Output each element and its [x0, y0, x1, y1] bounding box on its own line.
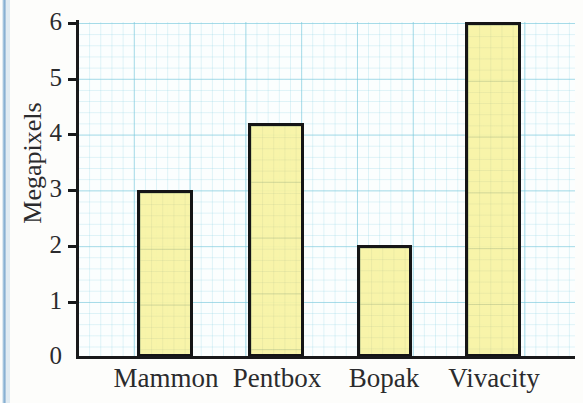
- x-label-bopak: Bopak: [349, 364, 420, 394]
- y-tick-label: 6: [50, 9, 63, 34]
- y-tick-mark: [68, 245, 78, 248]
- bar-pentbox: [248, 123, 304, 358]
- bar-vivacity: [465, 22, 521, 357]
- y-tick-label: 4: [50, 120, 63, 145]
- bar-chart-figure: 6 5 4 3 2 1 0 Megapixels Mammon Pentbox …: [0, 0, 583, 403]
- bar-bopak: [357, 245, 412, 357]
- x-label-mammon: Mammon: [114, 364, 219, 394]
- y-tick-mark: [68, 78, 78, 81]
- y-tick-mark: [68, 22, 78, 25]
- y-tick-label: 1: [50, 288, 63, 313]
- x-axis-line: [76, 356, 575, 359]
- page-edge-stripe-inner: [7, 0, 10, 403]
- y-tick-label: 5: [50, 65, 63, 90]
- y-axis-title: Megapixels: [18, 78, 48, 248]
- plot-area: [78, 22, 575, 357]
- y-tick-label: 2: [50, 232, 63, 257]
- y-tick-mark: [68, 301, 78, 304]
- y-tick-label: 3: [50, 176, 63, 201]
- y-tick-label: 0: [50, 343, 63, 368]
- x-label-vivacity: Vivacity: [448, 364, 539, 394]
- y-tick-mark: [68, 133, 78, 136]
- bar-mammon: [137, 190, 193, 358]
- x-label-pentbox: Pentbox: [233, 364, 322, 394]
- y-tick-mark: [68, 189, 78, 192]
